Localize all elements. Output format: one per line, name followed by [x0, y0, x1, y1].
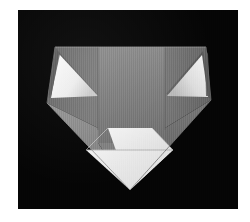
photograph-frame [18, 10, 238, 209]
folded-paper-illustration [18, 10, 238, 209]
screenshot-root: Folded paper model photograph [0, 0, 250, 222]
